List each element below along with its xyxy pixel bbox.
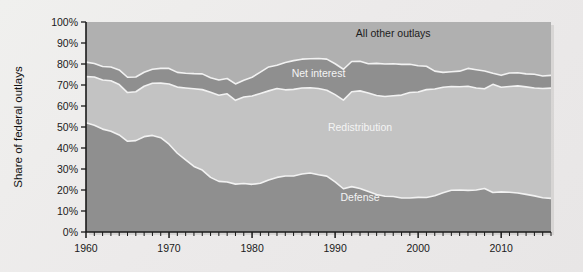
x-tick-label: 2000: [406, 242, 430, 254]
chart-page: 0%10%20%30%40%50%60%70%80%90%100%1960197…: [0, 0, 583, 272]
defense-label: Defense: [340, 191, 379, 203]
y-axis-title: Share of federal outlays: [12, 66, 24, 188]
x-tick-label: 1960: [74, 242, 98, 254]
x-tick-label: 1980: [240, 242, 264, 254]
x-tick-label: 1990: [323, 242, 347, 254]
y-tick-label: 20%: [57, 184, 78, 196]
net-interest-label: Net interest: [292, 67, 346, 79]
y-tick-label: 60%: [57, 100, 78, 112]
y-tick-label: 50%: [57, 121, 78, 133]
x-tick-label: 2010: [489, 242, 513, 254]
all-other-outlays-label: All other outlays: [356, 27, 431, 39]
x-tick-label: 1970: [157, 242, 181, 254]
stacked-area-chart: 0%10%20%30%40%50%60%70%80%90%100%1960197…: [0, 0, 583, 272]
y-tick-label: 40%: [57, 142, 78, 154]
y-tick-label: 30%: [57, 163, 78, 175]
y-tick-label: 90%: [57, 37, 78, 49]
y-tick-label: 100%: [51, 16, 78, 28]
y-tick-label: 0%: [63, 226, 78, 238]
y-tick-label: 80%: [57, 58, 78, 70]
redistribution-label: Redistribution: [328, 121, 392, 133]
y-tick-label: 70%: [57, 79, 78, 91]
y-tick-label: 10%: [57, 205, 78, 217]
